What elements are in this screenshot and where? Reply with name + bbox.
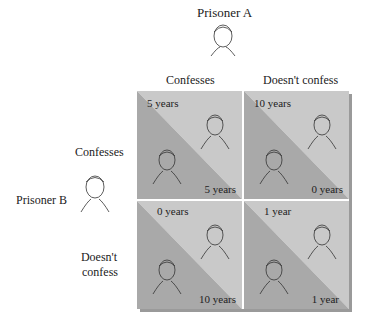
prisoner-a-sentence: 10 years <box>254 97 291 109</box>
cell-confess-deny: 10 years 0 years <box>244 91 349 199</box>
column-header-doesnt-confess: Doesn't confess <box>263 73 338 88</box>
prisoner-b-sentence: 10 years <box>199 293 236 305</box>
cell-deny-deny: 1 year 1 year <box>244 201 349 309</box>
prisoner-b-face-icon <box>256 256 292 296</box>
prisoner-b-face-icon <box>256 146 292 186</box>
prisoner-a-face-icon <box>304 221 340 261</box>
prisoner-a-sentence: 1 year <box>264 205 291 217</box>
prisoner-a-sentence: 0 years <box>157 205 188 217</box>
prisoner-b-sentence: 5 years <box>205 183 236 195</box>
cell-deny-confess: 0 years 10 years <box>137 201 242 309</box>
row-header-line1: Doesn't <box>81 250 117 264</box>
row-header-doesnt-confess: Doesn't confess <box>80 250 118 280</box>
prisoner-a-label: Prisoner A <box>197 5 252 21</box>
cell-confess-confess: 5 years 5 years <box>137 91 242 199</box>
prisoner-b-label: Prisoner B <box>16 193 67 208</box>
prisoner-b-sentence: 0 years <box>312 183 343 195</box>
payoff-matrix: 5 years 5 years 10 years 0 years 0 years… <box>137 91 349 309</box>
prisoner-a-face-icon <box>203 22 243 58</box>
column-header-confesses: Confesses <box>166 73 215 88</box>
prisoner-a-face-icon <box>304 111 340 151</box>
prisoner-b-face-icon <box>149 256 185 296</box>
prisoner-a-sentence: 5 years <box>147 97 178 109</box>
row-header-line2: confess <box>80 265 118 279</box>
prisoner-b-face-icon <box>149 146 185 186</box>
prisoner-a-face-icon <box>197 111 233 151</box>
prisoner-a-face-icon <box>197 221 233 261</box>
row-header-confesses: Confesses <box>75 145 124 160</box>
prisoner-b-face-icon <box>77 172 113 216</box>
prisoner-b-sentence: 1 year <box>312 293 339 305</box>
